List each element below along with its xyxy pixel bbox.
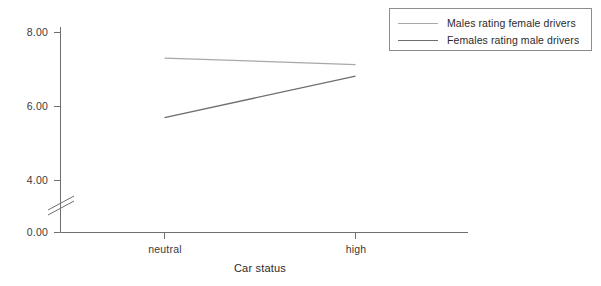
interaction-line-chart: 8.00 6.00 4.00 0.00 neutral high Car sta… — [0, 0, 601, 286]
legend-line-swatch-females-icon — [398, 40, 438, 41]
y-tick-label-4: 4.00 — [8, 174, 48, 186]
x-axis-title: Car status — [110, 262, 410, 274]
legend-entry-females: Females rating male drivers — [398, 33, 579, 47]
series-line-females-rating-male-drivers — [165, 76, 356, 117]
y-tick-label-6: 6.00 — [8, 100, 48, 112]
y-tick-label-0: 0.00 — [8, 226, 48, 238]
legend-line-swatch-males-icon — [398, 23, 438, 24]
legend-label-males: Males rating female drivers — [447, 17, 576, 29]
y-tick-label-8: 8.00 — [8, 26, 48, 38]
legend: Males rating female drivers Females rati… — [389, 8, 592, 51]
legend-label-females: Females rating male drivers — [447, 34, 579, 46]
x-tick-label-neutral: neutral — [125, 243, 205, 255]
x-tick-label-high: high — [316, 243, 396, 255]
series-line-males-rating-female-drivers — [165, 58, 356, 65]
legend-entry-males: Males rating female drivers — [398, 16, 576, 30]
